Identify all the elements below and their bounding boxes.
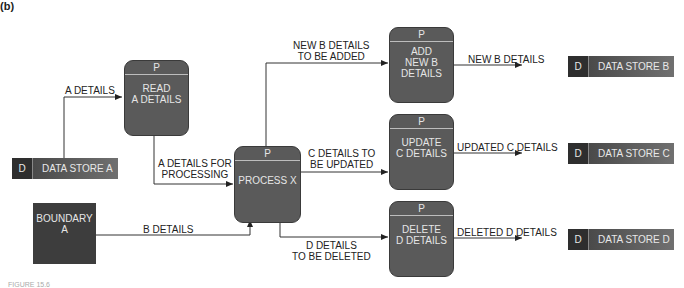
process-name: ADD NEW B DETAILS xyxy=(390,42,453,79)
flow-label-c-to-be-updated: C DETAILS TO BE UPDATED xyxy=(308,148,375,170)
process-delete-d-details[interactable]: P DELETE D DETAILS xyxy=(389,201,454,277)
process-tag: P xyxy=(390,28,453,42)
flow-label-d-to-be-deleted: D DETAILS TO BE DELETED xyxy=(292,240,371,262)
process-name: UPDATE C DETAILS xyxy=(390,129,453,159)
process-tag: P xyxy=(390,115,453,129)
flow-label-updated-c-details: UPDATED C DETAILS xyxy=(457,142,558,153)
boundary-a[interactable]: BOUNDARY A xyxy=(33,203,96,264)
flow-label-new-b-details: NEW B DETAILS xyxy=(468,54,545,65)
store-tag: D xyxy=(12,158,33,179)
flow-label-a-details: A DETAILS xyxy=(65,85,115,96)
store-name: DATA STORE D xyxy=(589,229,674,250)
store-tag: D xyxy=(568,56,589,77)
process-x[interactable]: P PROCESS X xyxy=(234,146,301,223)
process-add-new-b-details[interactable]: P ADD NEW B DETAILS xyxy=(389,27,454,103)
figure-caption: FIGURE 15.6 xyxy=(8,281,50,288)
process-tag: P xyxy=(390,202,453,216)
store-tag: D xyxy=(568,229,589,250)
flow-label-a-details-for-processing: A DETAILS FOR PROCESSING xyxy=(158,158,232,180)
process-read-a-details[interactable]: P READ A DETAILS xyxy=(124,60,189,136)
flow-label-new-b-to-be-added: NEW B DETAILS TO BE ADDED xyxy=(293,40,370,62)
data-store-b[interactable]: D DATA STORE B xyxy=(568,56,674,77)
process-name: PROCESS X xyxy=(235,161,300,186)
process-tag: P xyxy=(235,147,300,161)
process-update-c-details[interactable]: P UPDATE C DETAILS xyxy=(389,114,454,190)
process-tag: P xyxy=(125,61,188,75)
process-name: READ A DETAILS xyxy=(125,75,188,105)
flow-label-b-details: B DETAILS xyxy=(143,224,193,235)
store-name: DATA STORE B xyxy=(589,56,674,77)
data-store-d[interactable]: D DATA STORE D xyxy=(568,229,674,250)
store-tag: D xyxy=(568,143,589,164)
data-store-c[interactable]: D DATA STORE C xyxy=(568,143,674,164)
data-store-a[interactable]: D DATA STORE A xyxy=(12,158,118,179)
flow-label-deleted-d-details: DELETED D DETAILS xyxy=(457,227,557,238)
process-name: DELETE D DETAILS xyxy=(390,216,453,246)
store-name: DATA STORE C xyxy=(589,143,674,164)
store-name: DATA STORE A xyxy=(33,158,118,179)
